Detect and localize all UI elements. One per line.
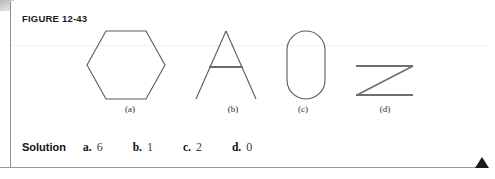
answer-value-b: 1 xyxy=(147,140,153,155)
shape-slot-d: (d) xyxy=(347,28,423,123)
figure-number-label: FIGURE 12-43 xyxy=(22,13,87,24)
shape-caption-a: (a) xyxy=(85,104,175,114)
hexagon-outline-icon xyxy=(85,28,167,102)
answer-key-d: d. xyxy=(232,141,241,153)
solution-answer-b: b. 1 xyxy=(133,140,153,155)
solution-answer-d: d. 0 xyxy=(232,140,252,155)
next-page-triangle-icon xyxy=(475,157,489,168)
answer-key-c: c. xyxy=(183,141,191,153)
shape-caption-d: (d) xyxy=(347,104,423,114)
solution-row: Solution a. 6 b. 1 c. 2 d. 0 xyxy=(22,140,282,158)
answer-value-c: 2 xyxy=(196,140,202,155)
shape-slot-c: (c) xyxy=(270,28,336,123)
answer-value-a: 6 xyxy=(97,140,103,155)
answer-key-b: b. xyxy=(133,141,142,153)
stadium-outline-icon xyxy=(284,28,328,102)
shape-slot-a: (a) xyxy=(85,28,175,123)
answer-value-d: 0 xyxy=(246,140,252,155)
solution-separator-rule xyxy=(11,130,487,131)
letter-a-outline-icon xyxy=(190,28,262,102)
shape-slot-b: (b) xyxy=(190,28,276,123)
shape-caption-b: (b) xyxy=(190,104,276,114)
solution-answer-c: c. 2 xyxy=(183,140,202,155)
figure-page: FIGURE 12-43 (a) (b) (c) (d) Solution xyxy=(0,0,495,179)
answer-key-a: a. xyxy=(83,141,92,153)
shape-caption-c: (c) xyxy=(270,104,336,114)
solution-answer-a: a. 6 xyxy=(83,140,103,155)
letter-z-outline-icon xyxy=(353,62,417,100)
bottom-rule xyxy=(0,167,487,168)
solution-heading: Solution xyxy=(22,141,66,153)
